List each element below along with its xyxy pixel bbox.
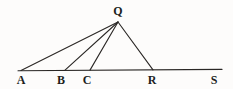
point-label-b: B [57,74,65,86]
cevian-Q-to-B [65,22,118,70]
baseline-A-to-S [18,69,222,70]
segment-layer [18,22,222,71]
point-label-a: A [17,74,26,86]
side-Q-to-R [118,22,153,70]
point-label-s: S [211,74,218,86]
point-label-q: Q [113,5,122,17]
point-label-r: R [148,74,157,86]
geometry-figure: QABCRS [0,0,233,89]
point-label-c: C [83,74,92,86]
